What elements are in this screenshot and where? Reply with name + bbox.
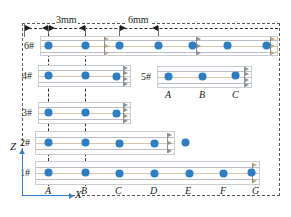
- beam-6-sensor-g: [263, 42, 270, 49]
- figure-canvas: 3mm 6mm 6# 4#: [0, 0, 291, 217]
- beam-1-sensor-f: [220, 170, 227, 177]
- inset-station-label-a: A: [165, 89, 171, 100]
- beam-4-sensor-a: [45, 72, 52, 79]
- beam-1-sensor-b: [82, 169, 89, 176]
- dimension-arrow-a-left: [42, 25, 48, 31]
- beam-5-label: 5#: [141, 71, 151, 82]
- dimension-arrow-c-right: [120, 25, 126, 31]
- station-label-c: C: [115, 185, 122, 196]
- beam-6-support-hatch-mid: [104, 37, 109, 55]
- station-label-f: F: [220, 185, 226, 196]
- beam-2-sensor-b: [82, 139, 89, 146]
- beam-3-support-hatch-end: [123, 103, 128, 123]
- beam-2-sensor-a: [45, 139, 52, 146]
- beam-2-sensor-e: [182, 139, 189, 146]
- dimension-arrow-b-left: [79, 25, 85, 31]
- dimension-arrow-origin-right: [25, 25, 31, 31]
- beam-3-label: 3#: [22, 107, 32, 118]
- beam-5-sensor-c: [232, 72, 239, 79]
- beam-3-sensor-c: [113, 110, 120, 117]
- beam-6-sensor-f: [224, 42, 231, 49]
- inset-station-label-b: B: [199, 89, 205, 100]
- beam-6-label: 6#: [24, 40, 34, 51]
- station-label-d: D: [150, 185, 157, 196]
- beam-1-sensor-g: [248, 169, 255, 176]
- beam-4-sensor-b: [82, 72, 89, 79]
- axis-z-line: [22, 154, 23, 196]
- station-label-g: G: [252, 185, 259, 196]
- beam-6-support-hatch-right-inner: [196, 37, 201, 55]
- beam-6-sensor-a: [45, 42, 52, 49]
- beam-1-sensor-e: [186, 170, 193, 177]
- dimension-arrow-d-left: [152, 25, 158, 31]
- beam-2-label: 2#: [20, 137, 30, 148]
- beam-1-sensor-d: [151, 170, 158, 177]
- axis-z-arrowhead: [19, 149, 25, 154]
- axis-z-label: Z: [10, 140, 16, 152]
- beam-2-support-hatch-end: [167, 133, 172, 153]
- beam-6-support-hatch-end: [270, 37, 275, 55]
- station-label-e: E: [185, 185, 191, 196]
- beam-6-sensor-c: [116, 42, 123, 49]
- beam-2-sensor-c: [116, 140, 123, 147]
- axis-x-line: [22, 195, 69, 196]
- beam-2-sensor-d: [151, 140, 158, 147]
- beam-3-sensor-b: [82, 109, 89, 116]
- axis-x-arrowhead: [69, 193, 74, 199]
- axis-x-label: X: [75, 188, 82, 200]
- beam-4-support-hatch-end: [123, 66, 128, 86]
- inset-station-label-c: C: [232, 89, 239, 100]
- dimension-arrow-a-right: [49, 25, 55, 31]
- beam-5-sensor-a: [165, 73, 172, 80]
- beam-6-sensor-b: [82, 42, 89, 49]
- beam-5-support-hatch-end: [244, 67, 249, 87]
- dimension-datum-line: [24, 28, 278, 29]
- beam-5-sensor-b: [199, 73, 206, 80]
- beam-3-sensor-a: [45, 109, 52, 116]
- dimension-label-3mm: 3mm: [55, 14, 78, 25]
- dimension-label-6mm: 6mm: [127, 14, 150, 25]
- beam-6-sensor-d: [155, 42, 162, 49]
- beam-6-sensor-e: [189, 42, 196, 49]
- beam-4-label: 4#: [22, 70, 32, 81]
- beam-1-sensor-c: [116, 170, 123, 177]
- beam-1-sensor-a: [45, 169, 52, 176]
- beam-4-sensor-c: [113, 73, 120, 80]
